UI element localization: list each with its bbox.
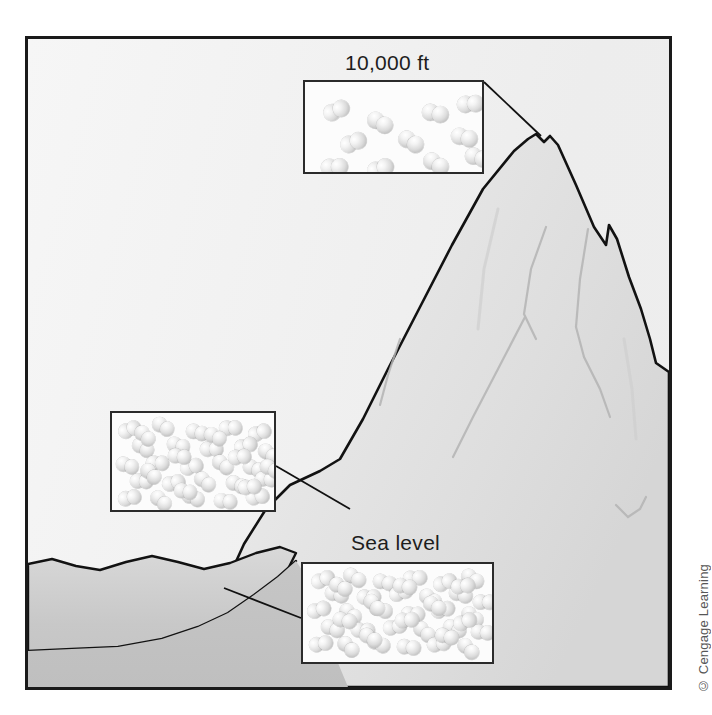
callout-midslope <box>110 411 276 512</box>
molecule <box>116 486 141 509</box>
molecule <box>455 92 483 116</box>
molecule <box>365 110 393 134</box>
molecule <box>393 578 415 594</box>
label-10000ft: 10,000 ft <box>345 51 429 75</box>
copyright-credit: © Cengage Learning <box>696 564 711 693</box>
molecule <box>115 456 137 473</box>
altitude-density-figure: 10,000 ft Sea level © Cengage Learning <box>0 0 712 715</box>
atom-sphere <box>182 484 197 499</box>
atom-sphere <box>374 155 397 174</box>
atom-sphere <box>222 493 238 509</box>
molecule <box>320 97 350 125</box>
molecule <box>396 128 425 153</box>
atom-sphere <box>342 614 357 629</box>
atom-sphere <box>405 640 421 656</box>
molecule <box>333 612 354 628</box>
atom-sphere <box>402 579 418 595</box>
molecule <box>421 150 450 174</box>
molecule <box>305 598 331 622</box>
molecule <box>319 155 347 174</box>
molecule <box>396 638 418 655</box>
molecule <box>213 492 235 509</box>
molecule <box>451 127 476 146</box>
figure-frame: 10,000 ft Sea level <box>25 36 672 690</box>
molecule <box>174 483 195 499</box>
leader-10000ft-to-peak <box>484 82 541 136</box>
atom-sphere <box>432 106 449 123</box>
molecule <box>307 632 333 655</box>
callout-10000ft <box>303 80 484 174</box>
callout-sea-level <box>301 562 494 664</box>
label-sea-level: Sea level <box>351 531 440 555</box>
molecule <box>167 447 189 464</box>
molecule <box>435 628 457 644</box>
molecule <box>364 155 394 174</box>
molecule <box>464 147 484 167</box>
molecule <box>422 104 447 122</box>
atom-sphere <box>460 130 478 148</box>
molecule <box>337 129 367 157</box>
